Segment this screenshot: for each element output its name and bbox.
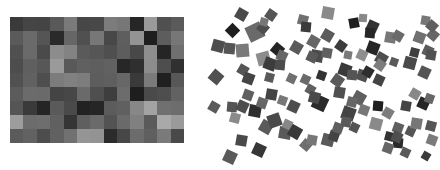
rotated-square bbox=[343, 50, 352, 59]
mosaic-cell bbox=[90, 45, 103, 59]
rotated-square bbox=[223, 42, 235, 54]
mosaic-cell bbox=[64, 115, 77, 129]
mosaic-cell bbox=[171, 59, 184, 73]
mosaic-cell bbox=[104, 59, 117, 73]
mosaic-cell bbox=[64, 31, 77, 45]
mosaic-cell bbox=[104, 129, 117, 143]
mosaic-cell bbox=[64, 45, 77, 59]
mosaic-cell bbox=[77, 45, 90, 59]
mosaic-cell bbox=[77, 17, 90, 31]
rotated-square bbox=[381, 106, 395, 120]
rotated-square bbox=[301, 22, 312, 33]
rotated-square bbox=[265, 88, 278, 101]
mosaic-cell bbox=[117, 59, 130, 73]
mosaic-cell bbox=[64, 87, 77, 101]
rotated-square bbox=[425, 49, 437, 61]
rotated-square bbox=[426, 134, 439, 147]
mosaic-cell bbox=[144, 129, 157, 143]
rotated-square bbox=[208, 69, 225, 86]
rotated-square bbox=[305, 33, 320, 48]
mosaic-cell bbox=[130, 31, 143, 45]
mosaic-cell bbox=[171, 31, 184, 45]
mosaic-cell bbox=[130, 45, 143, 59]
mosaic-cell bbox=[77, 101, 90, 115]
rotated-square bbox=[242, 89, 255, 102]
mosaic-cell bbox=[10, 73, 23, 87]
rotated-square bbox=[275, 60, 286, 71]
mosaic-cell bbox=[117, 45, 130, 59]
mosaic-cell bbox=[50, 115, 63, 129]
mosaic-cell bbox=[23, 115, 36, 129]
mosaic-cell bbox=[117, 17, 130, 31]
mosaic-cell bbox=[130, 17, 143, 31]
mosaic-cell bbox=[104, 87, 117, 101]
mosaic-cell bbox=[171, 115, 184, 129]
rotated-square bbox=[369, 117, 384, 132]
mosaic-cell bbox=[64, 59, 77, 73]
mosaic-cell bbox=[50, 31, 63, 45]
mosaic-cell bbox=[104, 45, 117, 59]
mosaic-cell bbox=[37, 87, 50, 101]
mosaic-cell bbox=[130, 87, 143, 101]
mosaic-cell bbox=[10, 45, 23, 59]
mosaic-cell bbox=[50, 73, 63, 87]
mosaic-cell bbox=[157, 45, 170, 59]
mosaic-cell bbox=[171, 45, 184, 59]
rotated-square bbox=[365, 28, 376, 39]
rotated-square bbox=[389, 57, 399, 67]
rotated-square bbox=[235, 99, 250, 114]
rotated-square bbox=[286, 99, 301, 114]
rotated-square bbox=[285, 72, 297, 84]
mosaic-cell bbox=[157, 31, 170, 45]
mosaic-cell bbox=[104, 17, 117, 31]
mosaic-cell bbox=[37, 17, 50, 31]
mosaic-cell bbox=[77, 87, 90, 101]
mosaic-cell bbox=[157, 101, 170, 115]
mosaic-cell bbox=[157, 87, 170, 101]
rotated-square bbox=[235, 43, 249, 57]
mosaic-cell bbox=[10, 87, 23, 101]
rotated-square bbox=[222, 149, 238, 165]
mosaic-cell bbox=[10, 129, 23, 143]
mosaic-cell bbox=[23, 31, 36, 45]
mosaic-cell bbox=[37, 73, 50, 87]
mosaic-cell bbox=[23, 101, 36, 115]
mosaic-cell bbox=[130, 73, 143, 87]
mosaic-cell bbox=[37, 115, 50, 129]
mosaic-cell bbox=[117, 73, 130, 87]
mosaic-cell bbox=[90, 129, 103, 143]
mosaic-cell bbox=[104, 31, 117, 45]
rotated-square bbox=[307, 90, 320, 103]
mosaic-cell bbox=[37, 45, 50, 59]
mosaic-cell bbox=[90, 31, 103, 45]
mosaic-cell bbox=[90, 115, 103, 129]
rotated-square bbox=[410, 117, 423, 130]
rotated-square bbox=[251, 142, 267, 158]
mosaic-cell bbox=[64, 17, 77, 31]
rotated-square bbox=[412, 30, 426, 44]
mosaic-cell bbox=[77, 129, 90, 143]
mosaic-cell bbox=[90, 87, 103, 101]
mosaic-cell bbox=[157, 73, 170, 87]
rotated-square bbox=[403, 56, 418, 71]
mosaic-cell bbox=[64, 73, 77, 87]
mosaic-cell bbox=[117, 31, 130, 45]
mosaic-cell bbox=[10, 31, 23, 45]
rotated-square bbox=[417, 65, 432, 80]
mosaic-cell bbox=[144, 87, 157, 101]
rotated-square bbox=[321, 6, 335, 20]
mosaic-cell bbox=[23, 73, 36, 87]
rotated-square bbox=[333, 86, 346, 99]
scattered-rotated-squares bbox=[200, 0, 440, 170]
mosaic-cell bbox=[50, 17, 63, 31]
rotated-square bbox=[207, 100, 221, 114]
mosaic-cell bbox=[117, 129, 130, 143]
mosaic-cell bbox=[171, 129, 184, 143]
rotated-square bbox=[229, 112, 241, 124]
mosaic-cell bbox=[10, 101, 23, 115]
mosaic-cell bbox=[144, 17, 157, 31]
mosaic-cell bbox=[23, 129, 36, 143]
rotated-square bbox=[382, 142, 395, 155]
mosaic-cell bbox=[10, 115, 23, 129]
mosaic-cell bbox=[37, 59, 50, 73]
